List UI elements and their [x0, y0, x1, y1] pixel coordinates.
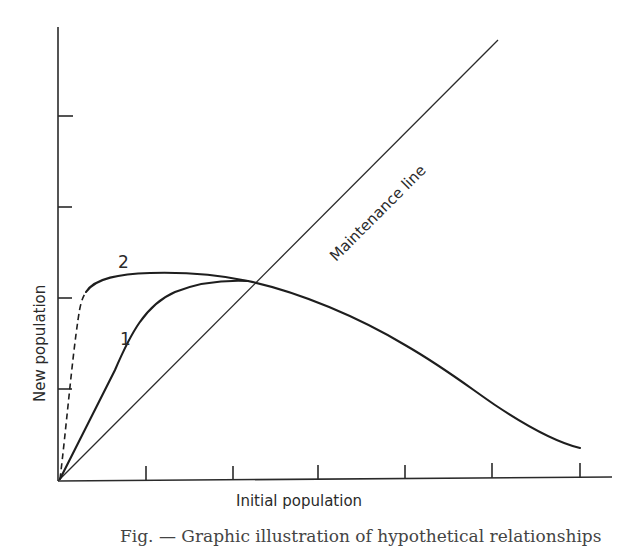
curve-2	[86, 273, 580, 448]
curve-2-label: 2	[118, 252, 129, 272]
y-axis-ticks	[58, 116, 73, 389]
x-axis	[58, 477, 612, 481]
x-axis-label: Initial population	[236, 492, 362, 510]
maintenance-line-label: Maintenance line	[326, 161, 430, 265]
figure-caption: Fig. — Graphic illustration of hypotheti…	[120, 526, 620, 546]
y-axis-label: New population	[31, 285, 49, 402]
curve-1	[60, 281, 248, 479]
curve-1-label: 1	[120, 329, 131, 349]
